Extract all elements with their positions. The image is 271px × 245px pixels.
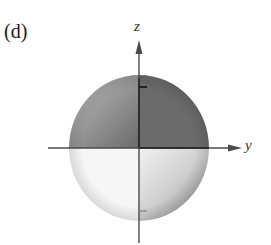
sphere-diagram — [0, 0, 271, 245]
y-axis-label: y — [245, 137, 252, 154]
y-axis-arrow-icon — [228, 145, 242, 152]
z-axis-arrow-icon — [136, 40, 143, 54]
z-axis-label: z — [134, 18, 140, 35]
